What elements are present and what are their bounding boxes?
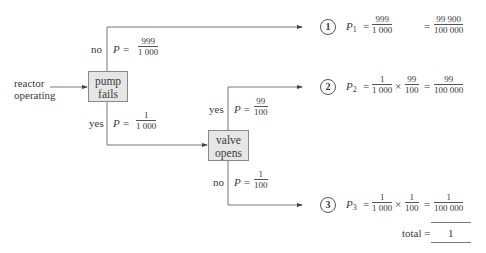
outcome-2-eq-2: = (424, 81, 430, 92)
outcome-3-marker: 3 (320, 197, 336, 213)
p-symbol: P (346, 80, 353, 92)
outcome-2-marker: 2 (320, 79, 336, 95)
numerator: 1 (379, 74, 386, 84)
denominator: 100 (254, 180, 268, 190)
p-symbol: P (346, 20, 353, 32)
outcome-3-factor-1: 1 1 000 (372, 192, 392, 213)
denominator: 100 000 (434, 85, 463, 95)
start-label: reactor operating (14, 77, 56, 101)
numerator: 99 (443, 74, 454, 84)
numerator: 99 (406, 74, 417, 84)
denominator: 100 (405, 85, 419, 95)
total-bottom-rule (431, 242, 471, 243)
denominator: 1 000 (372, 203, 392, 213)
numerator: 1 (143, 110, 150, 120)
outcome-3-eq-2: = (424, 199, 430, 210)
numerator: 999 (374, 14, 390, 24)
outcome-1-factor-1: 999 1 000 (372, 14, 392, 35)
branch-pump-yes-fraction: 1 1 000 (136, 110, 156, 131)
outcome-2-times: × (395, 81, 401, 92)
outcome-3-eq: = (363, 199, 369, 210)
numerator: 99 (255, 96, 266, 106)
start-label-line-1: reactor (14, 77, 56, 89)
denominator: 1 000 (136, 121, 156, 131)
denominator: 1 000 (372, 25, 392, 35)
outcome-2-eq: = (363, 81, 369, 92)
branch-pump-yes-answer: yes (89, 118, 104, 129)
branch-valve-no-p: P = (234, 177, 251, 188)
outcome-2-factor-1: 1 1 000 (372, 74, 392, 95)
node-pump-fails: pump fails (88, 71, 128, 102)
node-valve-label-1: valve (209, 134, 248, 147)
total-value: 1 (448, 228, 454, 239)
branch-pump-no-p: P = (113, 44, 130, 55)
branch-pump-no-fraction: 999 1 000 (138, 36, 158, 57)
outcome-2-result: 99 100 000 (434, 74, 463, 95)
outcome-2-p-label: P2 (346, 81, 357, 95)
start-label-line-2: operating (14, 89, 56, 101)
branch-pump-no-line (107, 27, 302, 71)
outcome-1-marker: 1 (320, 19, 336, 35)
outcome-1-eq-2: = (424, 21, 430, 32)
p-subscript: 1 (353, 25, 357, 34)
outcome-3-times: × (395, 199, 401, 210)
branch-pump-yes-p: P = (113, 118, 130, 129)
outcome-1-result: 99 900 100 000 (434, 14, 463, 35)
denominator: 100 000 (434, 25, 463, 35)
total-top-rule (431, 222, 471, 223)
outcome-3-factor-2: 1 100 (405, 192, 419, 213)
denominator: 100 000 (434, 203, 463, 213)
outcome-2-factor-2: 99 100 (405, 74, 419, 95)
node-pump-label-2: fails (89, 88, 127, 101)
numerator: 99 900 (435, 14, 462, 24)
outcome-1-p-label: P1 (346, 21, 357, 35)
p-subscript: 3 (353, 203, 357, 212)
numerator: 999 (140, 36, 156, 46)
branch-valve-yes-answer: yes (209, 104, 224, 115)
tree-connectors (0, 0, 486, 253)
node-valve-label-2: opens (209, 147, 248, 160)
branch-valve-yes-fraction: 99 100 (254, 96, 268, 117)
branch-valve-no-fraction: 1 100 (254, 169, 268, 190)
branch-pump-no-answer: no (91, 44, 102, 55)
denominator: 1 000 (138, 47, 158, 57)
node-valve-opens: valve opens (208, 130, 249, 161)
node-pump-label-1: pump (89, 75, 127, 88)
outcome-3-result: 1 100 000 (434, 192, 463, 213)
outcome-1-eq: = (363, 21, 369, 32)
numerator: 1 (409, 192, 416, 202)
branch-valve-no-answer: no (213, 177, 224, 188)
denominator: 1 000 (372, 85, 392, 95)
numerator: 1 (379, 192, 386, 202)
denominator: 100 (254, 107, 268, 117)
numerator: 1 (258, 169, 265, 179)
numerator: 1 (445, 192, 452, 202)
branch-valve-yes-p: P = (234, 104, 251, 115)
outcome-3-p-label: P3 (346, 199, 357, 213)
total-label: total = (402, 228, 431, 239)
p-symbol: P (346, 198, 353, 210)
denominator: 100 (405, 203, 419, 213)
p-subscript: 2 (353, 85, 357, 94)
